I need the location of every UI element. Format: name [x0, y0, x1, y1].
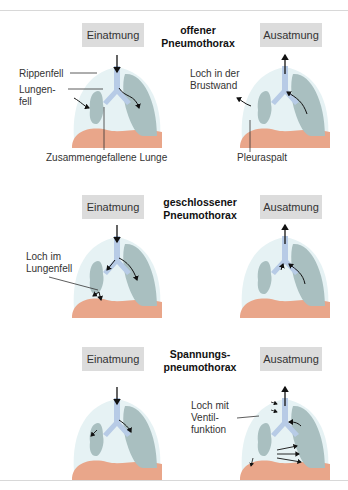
phase-exhalation-box: Ausatmung [260, 23, 322, 47]
section-closed-right-lung [240, 225, 330, 318]
phase-exhalation-box: Ausatmung [260, 195, 322, 219]
title-line: Pneumothorax [148, 37, 248, 50]
label-line: Brustwand [190, 80, 239, 92]
label-line: Loch in der [190, 68, 239, 80]
section-open-left-lung [72, 55, 162, 148]
title-line: pneumothorax [150, 361, 250, 374]
title-line: Spannungs- [150, 348, 250, 361]
phase-inhalation-box: Einatmung [82, 23, 144, 47]
section-title-open: offener Pneumothorax [148, 24, 248, 50]
label-pleural-gap: Pleuraspalt [237, 152, 287, 164]
label-collapsed-lung: Zusammengefallene Lunge [46, 152, 167, 164]
label-hole-chest-wall: Loch in der Brustwand [190, 68, 239, 92]
phase-exhalation-box: Ausatmung [260, 347, 322, 371]
label-line: fell [19, 96, 56, 108]
phase-inhalation-box: Einatmung [82, 347, 144, 371]
title-line: geschlossener [150, 196, 250, 209]
label-line: funktion [191, 424, 229, 436]
label-valve-hole: Loch mit Ventil- funktion [191, 400, 229, 436]
label-line: Loch im [26, 251, 72, 263]
title-line: Pneumothorax [150, 209, 250, 222]
section-tension-right-lung [240, 387, 330, 480]
section-open-right-lung [237, 55, 330, 148]
section-title-tension: Spannungs- pneumothorax [150, 348, 250, 374]
section-title-closed: geschlossener Pneumothorax [150, 196, 250, 222]
label-lungenfell: Lungen- fell [19, 84, 56, 108]
section-closed-left-lung [72, 225, 162, 318]
phase-inhalation-box: Einatmung [82, 195, 144, 219]
label-rippenfell: Rippenfell [19, 68, 63, 80]
label-line: Lungen- [19, 84, 56, 96]
label-line: Lungenfell [26, 263, 72, 275]
title-line: offener [148, 24, 248, 37]
label-hole-visceral-pleura: Loch im Lungenfell [26, 251, 72, 275]
label-line: Loch mit [191, 400, 229, 412]
label-line: Ventil- [191, 412, 229, 424]
section-tension-left-lung [72, 387, 162, 480]
